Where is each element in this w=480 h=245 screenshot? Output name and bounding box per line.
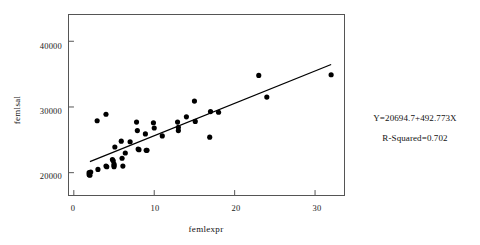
data-point bbox=[264, 95, 269, 100]
data-point bbox=[103, 112, 108, 117]
y-tick-label-40000: 40000 bbox=[24, 41, 62, 51]
data-point bbox=[123, 150, 128, 155]
y-axis-title: femlsal bbox=[12, 80, 22, 140]
data-point bbox=[104, 164, 109, 169]
y-tick-label-30000: 30000 bbox=[24, 106, 62, 116]
x-tick-label-10: 10 bbox=[151, 203, 160, 213]
data-point bbox=[88, 169, 93, 174]
data-point bbox=[119, 156, 124, 161]
data-point bbox=[120, 164, 125, 169]
regression-equation-text: Y=20694.7+492.773X bbox=[356, 108, 474, 128]
data-point bbox=[216, 110, 221, 115]
axis-tick-marks bbox=[69, 41, 315, 195]
x-tick-label-20: 20 bbox=[232, 203, 241, 213]
data-point bbox=[135, 128, 140, 133]
data-point bbox=[151, 120, 156, 125]
regression-annotation: Y=20694.7+492.773X R-Squared=0.702 bbox=[356, 108, 474, 148]
data-point bbox=[184, 114, 189, 119]
data-point bbox=[192, 98, 197, 103]
data-point bbox=[207, 135, 212, 140]
data-point bbox=[208, 109, 213, 114]
data-point bbox=[112, 144, 117, 149]
data-point bbox=[256, 73, 261, 78]
data-point bbox=[143, 131, 148, 136]
data-point bbox=[119, 139, 124, 144]
scatter-plot-figure: 40000 30000 20000 0 10 20 30 femlexpr fe… bbox=[0, 0, 480, 245]
data-point bbox=[329, 72, 334, 77]
x-tick-label-0: 0 bbox=[71, 203, 75, 213]
data-point bbox=[176, 128, 181, 133]
data-point bbox=[144, 148, 149, 153]
data-point bbox=[136, 147, 141, 152]
data-point-group bbox=[87, 72, 334, 178]
data-point bbox=[193, 119, 198, 124]
data-point bbox=[160, 133, 165, 138]
data-point bbox=[111, 164, 116, 169]
plot-area bbox=[68, 14, 345, 196]
x-tick-label-30: 30 bbox=[313, 203, 322, 213]
data-point bbox=[175, 120, 180, 125]
x-axis-title: femlexpr bbox=[0, 224, 412, 234]
data-point bbox=[128, 139, 133, 144]
plot-canvas bbox=[69, 15, 344, 195]
data-point bbox=[134, 120, 139, 125]
data-point bbox=[95, 167, 100, 172]
r-squared-text: R-Squared=0.702 bbox=[356, 128, 474, 148]
data-point bbox=[152, 125, 157, 130]
y-tick-label-20000: 20000 bbox=[24, 171, 62, 181]
data-point bbox=[95, 118, 100, 123]
